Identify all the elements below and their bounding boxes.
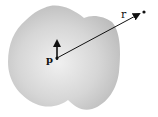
dipole-label: p [46, 54, 53, 65]
position-vector-label: r [121, 8, 127, 21]
field-point-dot [142, 10, 145, 13]
charge-distribution-body [8, 6, 120, 110]
diagram-canvas: p r [0, 0, 158, 117]
